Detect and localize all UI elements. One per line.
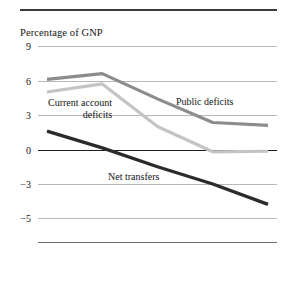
y-tick-label: 3: [5, 110, 31, 121]
y-tick-label: 0: [5, 144, 31, 155]
y-tick-label: 9: [5, 41, 31, 52]
series-line-net-transfers: [47, 131, 268, 204]
y-tick-label: −3: [5, 179, 31, 190]
y-tick-label: 6: [5, 75, 31, 86]
plot-area: 9630−3−5 19811982198319841985 Current ac…: [38, 46, 277, 244]
top-rule-divider: [20, 9, 277, 11]
series-label-current-account-deficits: Current account deficits: [48, 97, 112, 122]
series-label-current-account-line1: Current account: [48, 97, 112, 108]
series-label-net-transfers: Net transfers: [108, 171, 159, 184]
series-label-current-account-line2: deficits: [83, 109, 112, 120]
page-title: Percentage of GNP: [20, 27, 103, 38]
series-label-public-deficits: Public deficits: [176, 96, 234, 109]
series-lines-group: [38, 46, 277, 244]
y-tick-label: −5: [5, 213, 31, 224]
figure-panel: Percentage of GNP 9630−3−5 1981198219831…: [0, 0, 295, 281]
